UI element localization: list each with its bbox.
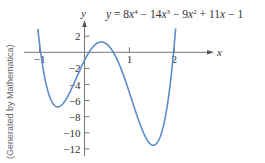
generated-by-note: (Generated by Mathematica): [4, 49, 16, 159]
y-axis-label: y: [80, 7, 86, 19]
axes: x y −112 2−2−4−6−8−10−12: [24, 7, 222, 156]
y-ticks: 2−2−4−6−8−10−12: [63, 30, 89, 155]
x-ticks: −112: [34, 47, 177, 65]
y-tick-label: −12: [63, 143, 80, 155]
function-plot: x y −112 2−2−4−6−8−10−12: [0, 0, 265, 163]
y-axis-arrow-icon: [82, 20, 87, 27]
equation-lhs: y: [106, 8, 111, 20]
equation-label: y = 8x4 − 14x3 − 9x2 + 11x − 1: [106, 8, 243, 20]
y-tick-label: 2: [75, 30, 81, 42]
x-tick-label: 1: [127, 53, 133, 65]
y-tick-label: −6: [69, 95, 81, 107]
polynomial-curve: [38, 28, 176, 145]
x-axis-label: x: [216, 46, 222, 58]
equation-terms: 8x4 − 14x3 − 9x2 + 11x − 1: [123, 8, 243, 20]
y-tick-label: −8: [69, 111, 81, 123]
x-tick-label: −1: [34, 53, 46, 65]
y-tick-label: −10: [63, 127, 81, 139]
x-axis-arrow-icon: [207, 50, 214, 55]
